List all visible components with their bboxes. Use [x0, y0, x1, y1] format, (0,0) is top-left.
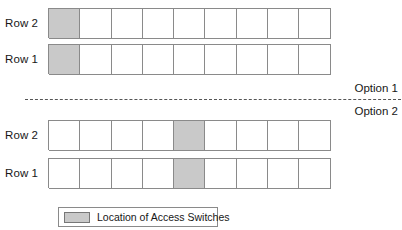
cell-track — [48, 158, 331, 188]
legend-swatch-icon — [64, 212, 90, 223]
grid-cell — [237, 121, 268, 151]
grid-cell — [205, 159, 236, 189]
option-2-caption: Option 2 — [278, 105, 398, 117]
grid-cell — [237, 9, 268, 39]
grid-cell — [80, 121, 111, 151]
grid-cell — [80, 159, 111, 189]
grid-cell — [268, 9, 299, 39]
cell-track — [48, 120, 331, 150]
grid-cell — [143, 45, 174, 75]
grid-cell — [205, 9, 236, 39]
grid-cell — [299, 121, 330, 151]
grid-cell — [49, 159, 80, 189]
grid-cell-shaded — [49, 9, 80, 39]
grid-cell-shaded — [174, 121, 205, 151]
grid-cell — [143, 159, 174, 189]
diagram-canvas: Row 2 Row 1 Option 1 Option 2 Row 2 Row … — [0, 0, 402, 230]
legend-label: Location of Access Switches — [97, 211, 230, 223]
row-label: Row 1 — [5, 158, 45, 188]
grid-cell — [143, 121, 174, 151]
cell-track — [48, 8, 331, 38]
grid-cell — [174, 45, 205, 75]
grid-cell — [299, 159, 330, 189]
grid-cell-shaded — [174, 159, 205, 189]
grid-cell — [112, 121, 143, 151]
grid-cell — [268, 159, 299, 189]
grid-cell — [299, 9, 330, 39]
grid-cell — [174, 9, 205, 39]
grid-cell — [49, 121, 80, 151]
grid-cell — [299, 45, 330, 75]
grid-cell — [143, 9, 174, 39]
grid-cell — [80, 9, 111, 39]
grid-cell-shaded — [49, 45, 80, 75]
grid-cell — [80, 45, 111, 75]
grid-cell — [268, 121, 299, 151]
grid-cell — [205, 45, 236, 75]
grid-cell — [268, 45, 299, 75]
legend: Location of Access Switches — [58, 207, 218, 227]
grid-cell — [237, 45, 268, 75]
option-divider — [25, 99, 401, 100]
cell-track — [48, 44, 331, 74]
grid-cell — [205, 121, 236, 151]
row-label: Row 2 — [5, 8, 45, 38]
row-label: Row 1 — [5, 44, 45, 74]
option-1-caption: Option 1 — [278, 82, 398, 94]
grid-cell — [112, 159, 143, 189]
grid-cell — [112, 9, 143, 39]
grid-cell — [237, 159, 268, 189]
row-label: Row 2 — [5, 120, 45, 150]
grid-cell — [112, 45, 143, 75]
